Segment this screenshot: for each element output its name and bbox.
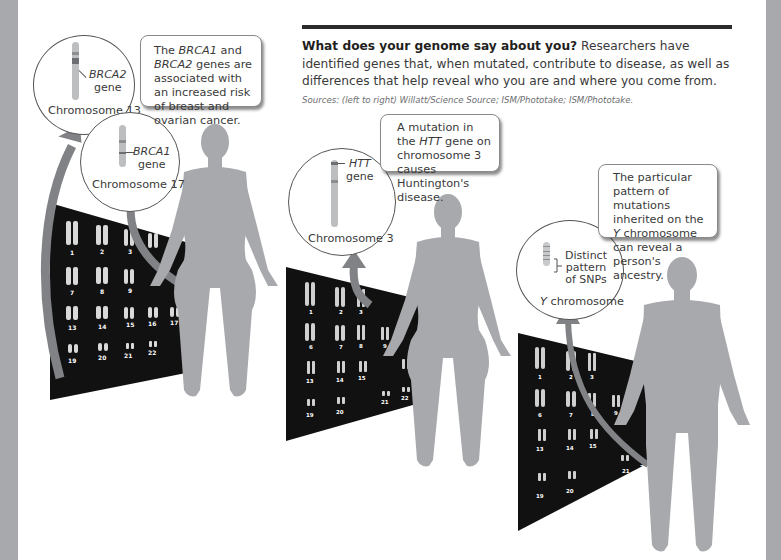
callout-htt: A mutation in the HTT gene on chromosome… xyxy=(380,114,500,172)
arrow-to-chromosome-3 xyxy=(330,250,390,310)
svg-text:6: 6 xyxy=(309,344,313,350)
htt-leader-line xyxy=(338,163,345,164)
male-silhouette xyxy=(614,255,750,555)
svg-text:15: 15 xyxy=(358,375,366,381)
brca1-gene-label: BRCA1 gene xyxy=(133,145,170,171)
svg-text:20: 20 xyxy=(336,409,344,415)
female-silhouette-2 xyxy=(383,190,513,470)
brca2-gene-label: BRCA2 gene xyxy=(89,68,126,94)
svg-text:19: 19 xyxy=(536,493,544,499)
svg-text:1: 1 xyxy=(309,309,313,315)
htt-gene-label: HTT gene xyxy=(346,157,374,183)
chromosome-17-label: Chromosome 17 xyxy=(92,178,185,191)
svg-text:20: 20 xyxy=(566,488,574,494)
snp-bracket xyxy=(553,258,563,274)
left-margin-strip xyxy=(0,0,18,560)
svg-text:14: 14 xyxy=(336,377,344,383)
caption-credit: Sources: (left to right) Willatt/Science… xyxy=(302,95,633,105)
chromosome-3-label: Chromosome 3 xyxy=(308,232,394,245)
caption-lead: What does your genome say about you? xyxy=(302,39,577,53)
y-chromosome-label: Y chromosome xyxy=(540,295,624,308)
y-chromosome-icon xyxy=(543,242,550,266)
svg-text:8: 8 xyxy=(359,343,363,349)
svg-text:7: 7 xyxy=(339,344,343,350)
callout-brca: The BRCA1 and BRCA2 genes are associated… xyxy=(140,35,262,107)
right-margin-strip xyxy=(766,0,781,560)
chromosome-17-icon xyxy=(119,125,126,167)
header-rule xyxy=(302,25,732,29)
figure-caption: What does your genome say about you? Res… xyxy=(302,38,742,109)
snp-pattern-label: Distinct pattern of SNPs xyxy=(565,250,607,286)
callout-y-chromosome: The particular pattern of mutations inhe… xyxy=(598,164,718,238)
chromosome-3-icon xyxy=(331,160,338,227)
svg-text:13: 13 xyxy=(306,378,314,384)
svg-text:19: 19 xyxy=(306,412,314,418)
